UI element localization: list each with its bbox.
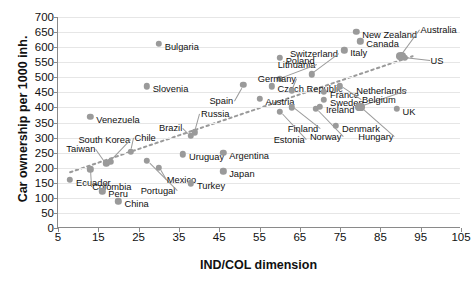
gridline: [58, 47, 460, 48]
y-axis-tick-label: 700: [35, 11, 54, 23]
y-axis-tick-label: 250: [35, 147, 54, 159]
y-axis-tick-mark: [54, 183, 58, 184]
x-axis-tick-mark: [179, 228, 180, 232]
gridline: [58, 62, 460, 63]
x-axis-tick-mark: [421, 228, 422, 232]
x-axis-title: IND/COL dimension: [57, 258, 460, 272]
data-point-label: Venezuela: [96, 116, 139, 125]
y-axis-tick-mark: [54, 17, 58, 18]
plot-area: 0501001502002503003504004505005506006507…: [57, 17, 460, 228]
data-point-label: Taiwan: [66, 145, 95, 154]
data-point-label: South Korea: [78, 136, 130, 145]
x-axis-tick-mark: [380, 228, 381, 232]
y-axis-tick-mark: [54, 213, 58, 214]
x-axis-tick-mark: [300, 228, 301, 232]
x-axis-tick-label: 95: [414, 231, 427, 243]
y-axis-tick-label: 650: [35, 26, 54, 38]
y-axis-tick-label: 350: [35, 117, 54, 129]
y-axis-tick-label: 50: [41, 207, 54, 219]
y-axis-tick-label: 300: [35, 132, 54, 144]
data-point-label: Chile: [135, 134, 156, 143]
x-axis-tick-label: 25: [132, 231, 145, 243]
data-point-label: Italy: [350, 49, 367, 58]
data-point-label: Uruguay: [189, 153, 224, 162]
y-axis-tick-mark: [54, 107, 58, 108]
x-axis-tick-mark: [219, 228, 220, 232]
x-axis-tick-mark: [260, 228, 261, 232]
y-axis-tick-mark: [54, 123, 58, 124]
data-point-label: UK: [403, 108, 416, 117]
data-point-label: Slovenia: [153, 85, 189, 94]
data-point-label: Spain: [209, 97, 233, 106]
gridline: [58, 168, 460, 169]
y-axis-tick-label: 450: [35, 86, 54, 98]
y-axis-tick-label: 500: [35, 71, 54, 83]
x-axis-tick-mark: [58, 228, 59, 232]
data-point-label: Turkey: [197, 182, 225, 191]
gridline: [58, 17, 460, 18]
y-axis-tick-mark: [54, 62, 58, 63]
y-axis-tick-mark: [54, 47, 58, 48]
x-axis-tick-mark: [98, 228, 99, 232]
y-axis-tick-label: 150: [35, 177, 54, 189]
data-point-label: China: [124, 200, 148, 209]
x-axis-tick-label: 55: [253, 231, 266, 243]
y-axis-title: Car ownership per 1000 inh.: [16, 4, 30, 234]
y-axis-tick-mark: [54, 198, 58, 199]
x-axis-tick-label: 45: [213, 231, 226, 243]
gridline: [58, 213, 460, 214]
x-axis-tick-mark: [139, 228, 140, 232]
data-point-label: Estonia: [274, 136, 305, 145]
x-axis-tick-label: 65: [293, 231, 306, 243]
y-axis-tick-mark: [54, 153, 58, 154]
data-point-label: Bulgaria: [165, 43, 199, 52]
data-point-label: New Zealand: [362, 31, 417, 40]
data-point-label: Hungary: [358, 133, 393, 142]
y-axis-tick-mark: [54, 77, 58, 78]
scatter-chart: Car ownership per 1000 inh. 050100150200…: [0, 0, 473, 281]
y-axis-tick-label: 600: [35, 41, 54, 53]
y-axis-tick-label: 400: [35, 101, 54, 113]
x-axis-tick-label: 105: [451, 231, 470, 243]
data-point-label: Ireland: [326, 106, 354, 115]
x-axis-tick-label: 75: [334, 231, 347, 243]
data-point-label: US: [431, 57, 444, 66]
x-axis-tick-mark: [461, 228, 462, 232]
data-point-label: Brazil: [159, 124, 182, 133]
y-axis-tick-mark: [54, 92, 58, 93]
y-axis-tick-label: 100: [35, 192, 54, 204]
y-axis-tick-mark: [54, 138, 58, 139]
x-axis-tick-label: 5: [55, 231, 61, 243]
x-axis-tick-label: 15: [92, 231, 105, 243]
x-axis-tick-label: 35: [172, 231, 185, 243]
data-point-label: Germany: [258, 75, 296, 84]
x-axis-tick-label: 85: [374, 231, 387, 243]
data-point-label: Japan: [229, 170, 254, 179]
x-axis-tick-mark: [340, 228, 341, 232]
y-axis-tick-label: 200: [35, 162, 54, 174]
data-point-label: Portugal: [141, 187, 176, 196]
data-point-label: Russia: [201, 110, 229, 119]
data-point-label: Norway: [310, 133, 342, 142]
y-axis-tick-mark: [54, 168, 58, 169]
data-point-label: Argentina: [229, 152, 269, 161]
data-point-label: Belgium: [362, 96, 396, 105]
gridline: [58, 107, 460, 108]
data-point-label: Australia: [421, 26, 457, 35]
data-point-label: Canada: [366, 40, 399, 49]
y-axis-tick-mark: [54, 32, 58, 33]
y-axis-tick-label: 550: [35, 56, 54, 68]
